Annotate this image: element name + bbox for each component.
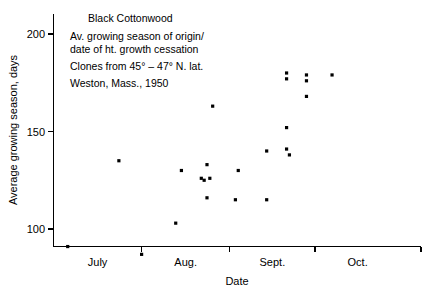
- data-point: [117, 159, 120, 162]
- data-point: [285, 71, 288, 74]
- annotation-line-4: Weston, Mass., 1950: [70, 77, 169, 89]
- data-points-group: [66, 71, 334, 256]
- data-point: [285, 77, 288, 80]
- data-point: [140, 253, 143, 256]
- data-point: [265, 149, 268, 152]
- data-point: [330, 73, 333, 76]
- annotation-line-3: Clones from 45° – 47° N. lat.: [70, 60, 203, 72]
- x-tick-label-3: Oct.: [348, 256, 368, 268]
- data-point: [205, 163, 208, 166]
- data-point: [203, 179, 206, 182]
- data-point: [180, 169, 183, 172]
- y-ticks-group: 100150200: [27, 28, 54, 235]
- data-point: [305, 79, 308, 82]
- data-point: [174, 222, 177, 225]
- data-point: [200, 177, 203, 180]
- data-point: [288, 153, 291, 156]
- data-point: [237, 169, 240, 172]
- data-point: [305, 73, 308, 76]
- data-point: [208, 177, 211, 180]
- data-point: [234, 198, 237, 201]
- data-point: [305, 95, 308, 98]
- data-point: [265, 198, 268, 201]
- annotation-line-2: date of ht. growth cessation: [70, 43, 199, 55]
- scatter-chart-figure: 100150200 JulyAug.Sept.Oct. Black Cotton…: [0, 0, 425, 292]
- x-ticks-group: JulyAug.Sept.Oct.: [88, 247, 421, 269]
- annotation-line-1: Av. growing season of origin/: [70, 30, 204, 42]
- y-tick-label-200: 200: [27, 28, 45, 40]
- data-point: [285, 147, 288, 150]
- y-tick-label-100: 100: [27, 223, 45, 235]
- data-point: [285, 126, 288, 129]
- data-point: [205, 196, 208, 199]
- data-point: [211, 105, 214, 108]
- y-axis-title: Average growing season, days: [7, 54, 19, 205]
- x-tick-label-0: July: [88, 256, 108, 268]
- x-tick-label-1: Aug.: [174, 256, 197, 268]
- x-tick-label-2: Sept.: [260, 256, 286, 268]
- annotation-line-0: Black Cottonwood: [88, 12, 173, 24]
- chart-canvas: 100150200 JulyAug.Sept.Oct. Black Cotton…: [0, 0, 425, 292]
- annotation-group: Black CottonwoodAv. growing season of or…: [70, 12, 204, 89]
- y-tick-label-150: 150: [27, 126, 45, 138]
- x-axis-title: Date: [225, 275, 248, 287]
- data-point: [66, 245, 69, 248]
